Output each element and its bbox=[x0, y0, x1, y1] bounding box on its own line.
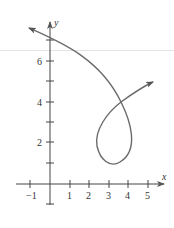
x-tick-label: 2 bbox=[86, 190, 91, 201]
y-axis-label: y bbox=[53, 17, 59, 28]
x-tick-label: 3 bbox=[106, 190, 111, 201]
parametric-curve-plot: −1 1 2 3 4 5 x 2 4 6 y bbox=[0, 0, 174, 228]
x-axis: −1 1 2 3 4 5 x bbox=[16, 171, 167, 201]
x-tick-label: 5 bbox=[145, 190, 150, 201]
x-tick-label: 4 bbox=[125, 190, 130, 201]
y-tick-label: 6 bbox=[37, 56, 42, 67]
parametric-curve bbox=[29, 28, 153, 164]
y-tick-label: 2 bbox=[37, 137, 42, 148]
y-axis: 2 4 6 y bbox=[37, 17, 59, 205]
x-tick-label: −1 bbox=[26, 190, 37, 201]
y-tick-label: 4 bbox=[37, 97, 42, 108]
x-axis-label: x bbox=[161, 171, 167, 182]
x-tick-label: 1 bbox=[67, 190, 72, 201]
